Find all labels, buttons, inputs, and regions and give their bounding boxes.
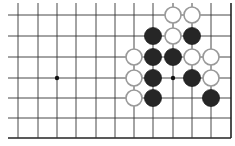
white-stone[interactable] [165, 7, 181, 23]
black-stone[interactable] [144, 48, 161, 65]
white-stone[interactable] [184, 7, 200, 23]
white-stone[interactable] [165, 28, 181, 44]
black-stone[interactable] [183, 69, 200, 86]
white-stone[interactable] [184, 49, 200, 65]
white-stone[interactable] [203, 49, 219, 65]
go-board [0, 0, 235, 146]
white-stone[interactable] [126, 70, 142, 86]
black-stone[interactable] [183, 27, 200, 44]
black-stone[interactable] [144, 89, 161, 106]
star-point [171, 76, 175, 80]
black-stone[interactable] [144, 69, 161, 86]
white-stone[interactable] [126, 90, 142, 106]
black-stone[interactable] [144, 27, 161, 44]
star-point [55, 76, 59, 80]
white-stone[interactable] [126, 49, 142, 65]
board-grid [8, 3, 231, 138]
black-stone[interactable] [202, 89, 219, 106]
black-stone[interactable] [164, 48, 181, 65]
white-stone[interactable] [203, 70, 219, 86]
